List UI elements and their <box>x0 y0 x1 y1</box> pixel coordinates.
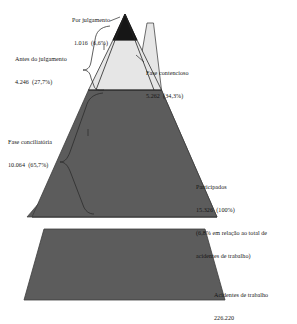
label-fase-contencioso: Fase contencioso 5.262 (34,3%) <box>146 55 226 116</box>
label-acidentes-de-trabalho-title: Acidentes de trabalho <box>214 292 296 300</box>
label-fase-conciliatoria-title: Fase conciliatória <box>8 139 92 147</box>
label-antes-do-julgamento: Antes do julgamento 4.246 (27,7%) <box>15 41 107 102</box>
label-participados-note-line1: (6,8% em relação ao total de <box>196 230 296 238</box>
label-participados-title: Participados <box>196 184 296 192</box>
label-participados-note-line2: acidentes de trabalho) <box>196 253 296 261</box>
label-acidentes-de-trabalho-value: 226.220 <box>214 315 296 323</box>
label-por-julgamento-title: Por julgamento <box>57 17 125 25</box>
label-acidentes-de-trabalho: Acidentes de trabalho 226.220 <box>214 277 296 324</box>
label-fase-conciliatoria: Fase conciliatória 10.064 (65,7%) <box>8 124 92 185</box>
label-fase-conciliatoria-value: 10.064 (65,7%) <box>8 162 92 170</box>
label-fase-contencioso-title: Fase contencioso <box>146 70 226 78</box>
label-fase-contencioso-value: 5.262 (34,3%) <box>146 93 226 101</box>
label-participados: Participados 15.326 (100%) (6,8% em rela… <box>196 169 296 275</box>
acidentes-trabalho-block <box>24 229 225 300</box>
label-antes-do-julgamento-title: Antes do julgamento <box>15 56 107 64</box>
label-participados-value: 15.326 (100%) <box>196 207 296 215</box>
label-antes-do-julgamento-value: 4.246 (27,7%) <box>15 79 107 87</box>
